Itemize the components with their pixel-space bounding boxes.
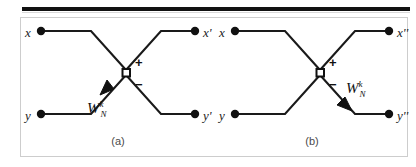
edge-x-to-node	[41, 31, 126, 70]
summing-node-b	[317, 69, 325, 77]
butterfly-diagram-b: x y x'' y'' + − WkN (b)	[215, 18, 409, 158]
edge-x-to-node	[235, 31, 320, 70]
twiddle-base-b: W	[346, 80, 359, 96]
terminal-dot-x-prime	[191, 27, 199, 35]
terminal-dot-y-prime	[191, 110, 199, 118]
terminal-dot-x	[231, 27, 239, 35]
edge-y-to-node	[235, 75, 320, 114]
edge-y-to-node	[41, 75, 126, 114]
terminal-dot-y	[231, 110, 239, 118]
label-y-input-b: y	[219, 109, 225, 122]
label-x-input-a: x	[25, 26, 31, 39]
twiddle-subscript-b: N	[360, 89, 366, 99]
terminal-dot-x	[37, 27, 45, 35]
twiddle-arrowhead-b	[337, 97, 352, 111]
top-rule-hairline	[22, 12, 410, 13]
twiddle-superscript-a: k	[100, 99, 104, 109]
figure-page: x y x' y' + − WkN (a)	[0, 0, 416, 167]
caption-b: (b)	[215, 136, 409, 147]
plus-sign-b: +	[329, 56, 337, 69]
label-y-input-a: y	[25, 109, 31, 122]
minus-sign-b: −	[329, 78, 337, 91]
twiddle-base-a: W	[87, 100, 100, 116]
terminal-dot-x-double-prime	[385, 27, 393, 35]
figure-frame: x y x' y' + − WkN (a)	[20, 17, 408, 157]
caption-a: (a)	[21, 136, 215, 147]
twiddle-factor-label-a: WkN	[87, 100, 107, 119]
twiddle-superscript-b: k	[359, 79, 363, 89]
twiddle-factor-label-b: WkN	[346, 80, 366, 99]
label-y-double-prime-output-b: y''	[397, 109, 408, 122]
label-x-input-b: x	[219, 26, 225, 39]
twiddle-arrowhead-a	[100, 80, 114, 95]
top-rule	[22, 7, 410, 11]
twiddle-subscript-a: N	[101, 109, 107, 119]
terminal-dot-y	[37, 110, 45, 118]
summing-node-a	[123, 69, 131, 77]
terminal-dot-y-double-prime	[385, 110, 393, 118]
label-x-double-prime-output-b: x''	[397, 26, 408, 39]
minus-sign-a: −	[135, 78, 143, 91]
label-y-prime-output-a: y'	[203, 109, 212, 122]
butterfly-diagram-a: x y x' y' + − WkN (a)	[21, 18, 215, 158]
plus-sign-a: +	[135, 56, 143, 69]
label-x-prime-output-a: x'	[203, 26, 212, 39]
